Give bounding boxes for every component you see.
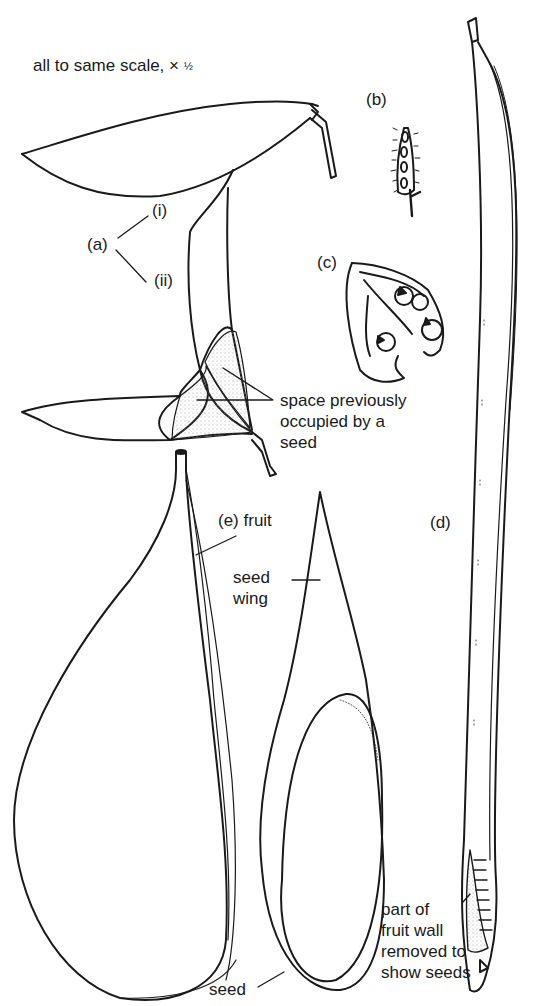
scale-note: all to same scale, × ½ [33,55,193,76]
pod-d [462,18,517,991]
leader-a-ii [116,250,146,282]
botanical-drawing [0,0,548,1006]
space-note: space previously occupied by a seed [280,390,407,453]
fruit-a-ii [22,170,276,476]
label-a: (a) [87,234,108,255]
leader-a-i [118,216,148,238]
scale-note-text: all to same scale, [33,56,164,75]
scale-fraction: ½ [184,62,193,71]
fruit-e [14,450,236,1000]
label-a-ii: (ii) [154,270,173,291]
seed-e [258,492,384,990]
label-seed-wing: seed wing [233,567,270,609]
fruit-a-i [22,101,336,196]
scale-symbol: × [169,56,179,75]
label-a-i: (i) [152,200,167,221]
label-e-fruit: (e) fruit [218,510,272,531]
label-d: (d) [430,512,451,533]
pod-b [391,128,420,216]
label-b: (b) [366,89,387,110]
pod-c [347,263,444,382]
label-seed: seed [209,979,246,1000]
label-c: (c) [317,252,337,273]
fruit-wall-note: part of fruit wall removed to show seeds [381,899,471,983]
